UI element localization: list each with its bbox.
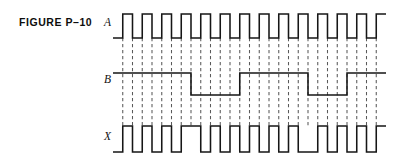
waveform-trace-a (113, 14, 386, 38)
grid-lines (123, 38, 377, 126)
waveform-trace-x (113, 126, 386, 152)
waveform-canvas (0, 0, 411, 161)
timing-diagram-figure: FIGURE P–10 A B X (0, 0, 411, 161)
